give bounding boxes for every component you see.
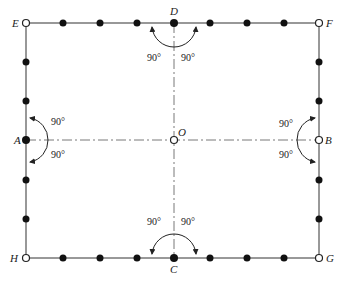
- label-F: F: [325, 17, 333, 29]
- arc-B-bottom: [297, 140, 315, 162]
- angle-A-top: 90°: [51, 116, 65, 127]
- angle-C-left: 90°: [147, 216, 161, 227]
- arc-D-right: [174, 27, 196, 47]
- point-O: [171, 137, 178, 144]
- corner-H: [23, 255, 30, 262]
- arc-A-bottom: [30, 140, 48, 162]
- corner-E: [23, 20, 30, 27]
- point-C: [170, 254, 178, 262]
- arc-C-left: [152, 234, 174, 254]
- label-B: B: [325, 134, 332, 146]
- label-C: C: [170, 263, 178, 275]
- angle-B-bottom: 90°: [279, 149, 293, 160]
- angle-D-left: 90°: [147, 52, 161, 63]
- point-A: [22, 136, 30, 144]
- label-E: E: [11, 17, 19, 29]
- arc-C-right: [174, 234, 196, 254]
- corner-G: [316, 255, 323, 262]
- arc-B-top: [297, 118, 315, 140]
- arc-A-top: [30, 118, 48, 140]
- label-O: O: [178, 126, 186, 138]
- angle-A-bottom: 90°: [51, 149, 65, 160]
- point-B: [316, 137, 323, 144]
- rectangle-axis-diagram: E F G H D C A B O 90° 90° 90° 90° 90° 90…: [0, 0, 343, 282]
- label-H: H: [9, 252, 19, 264]
- point-D: [170, 19, 178, 27]
- angle-D-right: 90°: [181, 52, 195, 63]
- angle-B-top: 90°: [279, 118, 293, 129]
- arc-D-left: [152, 27, 174, 47]
- label-A: A: [13, 134, 21, 146]
- label-D: D: [169, 5, 178, 17]
- corner-F: [316, 20, 323, 27]
- label-G: G: [326, 252, 334, 264]
- angle-C-right: 90°: [181, 216, 195, 227]
